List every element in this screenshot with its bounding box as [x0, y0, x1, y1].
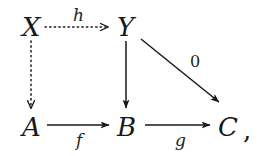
trailing-comma: , — [243, 117, 251, 143]
edge-label-f: f — [76, 132, 82, 149]
node-a: A — [22, 114, 41, 140]
edge-label-g: g — [175, 132, 186, 149]
edge-y-to-c — [141, 39, 219, 102]
edge-label-zero: 0 — [190, 54, 200, 70]
node-c: C — [218, 114, 238, 140]
node-x: X — [22, 14, 41, 40]
commutative-diagram: X Y A B C , h 0 f g — [0, 0, 261, 156]
node-y: Y — [117, 14, 134, 40]
node-b: B — [117, 114, 136, 140]
edge-label-h: h — [73, 7, 84, 24]
